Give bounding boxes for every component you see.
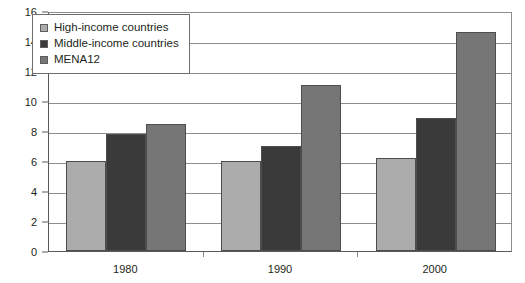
- bar: [66, 161, 106, 251]
- bar: [221, 161, 261, 251]
- legend-item: Middle-income countries: [40, 36, 179, 52]
- chart-legend: High-income countries Middle-income coun…: [32, 14, 190, 74]
- x-axis: 198019902000: [48, 252, 512, 283]
- legend-label: MENA12: [54, 54, 100, 66]
- x-axis-tick-mark: [203, 252, 204, 257]
- bar: [146, 124, 186, 252]
- legend-swatch-icon: [40, 56, 48, 64]
- bar: [106, 134, 146, 251]
- legend-item: High-income countries: [40, 20, 179, 36]
- y-axis-tick-label: 6: [31, 157, 37, 168]
- x-axis-tick-label: 1980: [113, 264, 137, 275]
- y-axis-tick-label: 4: [31, 187, 37, 198]
- bar: [261, 146, 301, 251]
- y-axis-tick-label: 8: [31, 127, 37, 138]
- x-axis-tick-label: 1990: [268, 264, 292, 275]
- legend-label: High-income countries: [54, 22, 168, 34]
- y-axis-tick-label: 2: [31, 217, 37, 228]
- y-axis-tick-label: 0: [31, 247, 37, 258]
- x-axis-tick-label: 2000: [422, 264, 446, 275]
- bar: [376, 158, 416, 251]
- legend-swatch-icon: [40, 24, 48, 32]
- bar: [456, 32, 496, 251]
- legend-swatch-icon: [40, 40, 48, 48]
- legend-label: Middle-income countries: [54, 38, 179, 50]
- legend-item: MENA12: [40, 52, 179, 68]
- bar: [416, 118, 456, 252]
- bar-chart: 0246810121416 198019902000 High-income c…: [0, 0, 525, 283]
- bar: [301, 85, 341, 252]
- y-axis-tick-label: 10: [25, 97, 37, 108]
- x-axis-tick-mark: [357, 252, 358, 257]
